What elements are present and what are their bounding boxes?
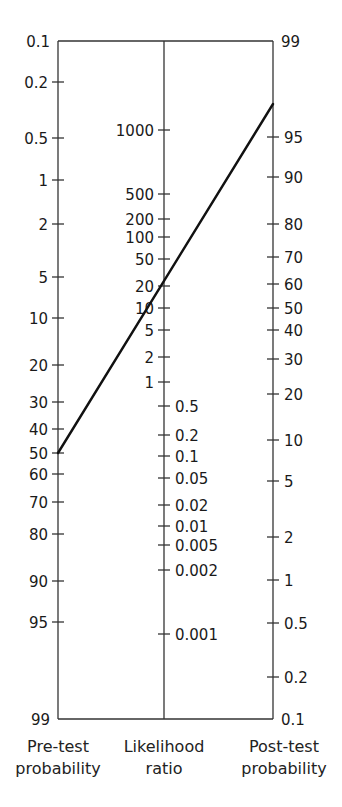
post-test-axis-title: Post-test probability	[226, 736, 342, 780]
likelihood-ratio-tick-label: 1	[144, 374, 154, 392]
lr-title-line2: ratio	[112, 758, 216, 780]
post-test-probability-tick-label: 0.1	[281, 711, 305, 729]
likelihood-ratio-tick-label: 0.1	[175, 448, 199, 466]
pre-test-probability-tick-label: 80	[29, 526, 48, 544]
pre-test-probability-tick-label: 20	[29, 357, 48, 375]
post-test-probability-tick-label: 5	[284, 473, 294, 491]
likelihood-ratio-tick-label: 0.005	[175, 537, 218, 555]
pre-test-probability-tick-label: 70	[29, 494, 48, 512]
pre-test-probability-tick-label: 5	[38, 269, 48, 287]
likelihood-ratio-tick-label: 0.001	[175, 626, 218, 644]
likelihood-ratio-tick-label: 0.5	[175, 398, 199, 416]
pre-test-probability-tick-label: 0.1	[26, 33, 50, 51]
likelihood-ratio-tick-label: 0.02	[175, 497, 208, 515]
pre-test-axis-title: Pre-test probability	[0, 736, 116, 780]
post-test-probability-tick-label: 70	[284, 249, 303, 267]
pre-test-probability-tick-label: 0.5	[24, 130, 48, 148]
post-test-title-line1: Post-test	[226, 736, 342, 758]
post-test-probability-tick-label: 99	[281, 33, 300, 51]
post-test-probability-tick-label: 2	[284, 529, 294, 547]
pre-test-probability-tick-label: 2	[38, 216, 48, 234]
example-probability-line	[58, 104, 273, 453]
likelihood-ratio-tick-label: 50	[135, 251, 154, 269]
likelihood-ratio-tick-label: 100	[125, 229, 154, 247]
pre-test-probability-tick-label: 95	[29, 614, 48, 632]
post-test-probability-tick-label: 30	[284, 351, 303, 369]
post-test-probability-tick-label: 10	[284, 432, 303, 450]
post-test-probability-tick-label: 40	[284, 322, 303, 340]
likelihood-ratio-tick-label: 0.2	[175, 427, 199, 445]
post-test-probability-tick-label: 95	[284, 129, 303, 147]
lr-title-line1: Likelihood	[112, 736, 216, 758]
post-test-probability-tick-label: 0.5	[284, 615, 308, 633]
post-test-probability-tick-label: 60	[284, 276, 303, 294]
pre-test-probability-tick-label: 40	[29, 421, 48, 439]
post-test-probability-tick-label: 1	[284, 572, 294, 590]
likelihood-ratio-tick-label: 0.002	[175, 562, 218, 580]
likelihood-ratio-tick-label: 0.05	[175, 470, 208, 488]
likelihood-ratio-tick-label: 0.01	[175, 518, 208, 536]
likelihood-ratio-tick-label: 200	[125, 211, 154, 229]
likelihood-ratio-tick-label: 500	[125, 186, 154, 204]
pre-test-probability-tick-label: 1	[38, 172, 48, 190]
pre-test-probability-tick-label: 60	[29, 466, 48, 484]
post-test-probability-tick-label: 0.2	[284, 669, 308, 687]
nomogram-chart: 0.10.20.51251020304050607080909599100050…	[0, 0, 342, 807]
likelihood-ratio-tick-label: 2	[144, 349, 154, 367]
post-test-probability-tick-label: 20	[284, 386, 303, 404]
likelihood-ratio-tick-label: 5	[144, 322, 154, 340]
pre-test-probability-tick-label: 90	[29, 573, 48, 591]
likelihood-ratio-tick-label: 1000	[116, 122, 154, 140]
pre-test-title-line1: Pre-test	[0, 736, 116, 758]
likelihood-ratio-tick-label: 20	[135, 278, 154, 296]
post-test-title-line2: probability	[226, 758, 342, 780]
post-test-probability-tick-label: 80	[284, 216, 303, 234]
pre-test-probability-tick-label: 99	[31, 711, 50, 729]
pre-test-probability-tick-label: 10	[29, 310, 48, 328]
pre-test-probability-tick-label: 0.2	[24, 74, 48, 92]
post-test-probability-tick-label: 90	[284, 169, 303, 187]
post-test-probability-tick-label: 50	[284, 300, 303, 318]
likelihood-ratio-axis-title: Likelihood ratio	[112, 736, 216, 780]
pre-test-probability-tick-label: 50	[29, 445, 48, 463]
pre-test-title-line2: probability	[0, 758, 116, 780]
pre-test-probability-tick-label: 30	[29, 394, 48, 412]
